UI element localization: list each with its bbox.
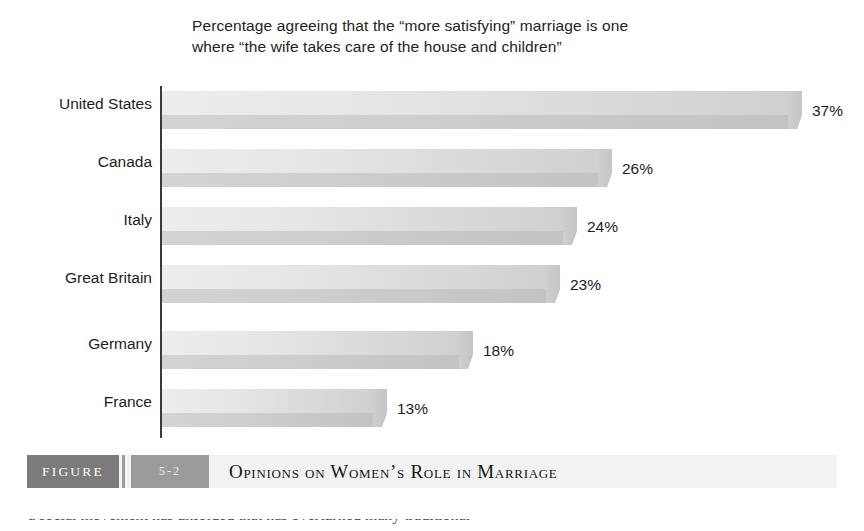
- bar-bottom-face: [162, 231, 563, 245]
- bar-bottom-face: [162, 115, 788, 129]
- bar-end-cap: [563, 207, 577, 245]
- bar-top-face: [162, 91, 788, 115]
- bar-bottom-face: [162, 413, 373, 427]
- bar-bottom-face: [162, 173, 598, 187]
- bar-top-face: [162, 265, 546, 289]
- caption-divider: [122, 455, 125, 488]
- bar-end-cap: [373, 389, 387, 427]
- bar-end-cap: [598, 149, 612, 187]
- value-label-great-britain: 23%: [570, 276, 601, 294]
- bar-bottom-face: [162, 289, 546, 303]
- chart-plot-area: United States Canada Italy Great Britain…: [0, 0, 864, 445]
- value-label-canada: 26%: [622, 160, 653, 178]
- figure-caption-bar: FIGURE 5-2 Opinions on Women’s Role in M…: [27, 455, 837, 488]
- bar-top-face: [162, 389, 373, 413]
- figure-number-chip: 5-2: [131, 455, 209, 488]
- axis-label-text: Great Britain: [4, 269, 152, 287]
- cropped-body-text: a social movement has unfolded that has …: [28, 519, 838, 524]
- figure-word-chip: FIGURE: [27, 455, 119, 488]
- bar-end-cap: [546, 265, 560, 303]
- bar-end-cap: [788, 91, 802, 129]
- value-label-germany: 18%: [483, 342, 514, 360]
- bar-top-face: [162, 149, 598, 173]
- axis-label-text: Italy: [4, 211, 152, 229]
- value-label-france: 13%: [397, 400, 428, 418]
- axis-label-text: Germany: [4, 335, 152, 353]
- axis-label-text: France: [4, 393, 152, 411]
- bar-top-face: [162, 331, 459, 355]
- value-label-italy: 24%: [587, 218, 618, 236]
- axis-label-text: Canada: [4, 153, 152, 171]
- bar-top-face: [162, 207, 563, 231]
- cropped-body-text-row: a social movement has unfolded that has …: [0, 519, 864, 531]
- axis-label-text: United States: [4, 95, 152, 113]
- bar-end-cap: [459, 331, 473, 369]
- bar-bottom-face: [162, 355, 459, 369]
- figure-caption-title: Opinions on Women’s Role in Marriage: [229, 455, 557, 488]
- category-axis-line: [160, 86, 162, 438]
- value-label-united-states: 37%: [812, 102, 843, 120]
